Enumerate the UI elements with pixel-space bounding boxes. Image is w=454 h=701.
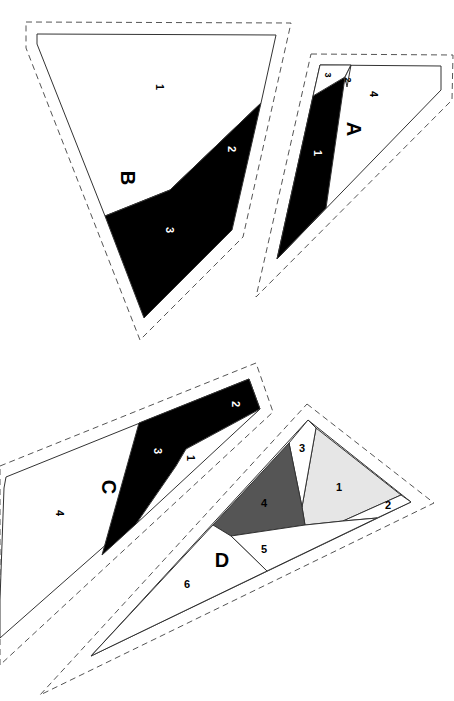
section-d-piece-3-label: 3	[299, 442, 305, 454]
section-b-piece-2-label: 2	[226, 146, 238, 152]
section-c-piece-3-label: 3	[152, 448, 164, 454]
section-c-piece-4-label: 4	[54, 510, 66, 517]
section-a-label: A	[343, 122, 365, 136]
section-a: 3 2 4 1 A	[256, 54, 453, 297]
pattern-canvas: 1 2 3 B 3 2 4 1 A 2 3 1 4 C	[0, 0, 454, 701]
section-d-piece-4-label: 4	[261, 497, 268, 509]
section-a-piece-1-label: 1	[312, 150, 324, 156]
section-c-piece-2-label: 2	[230, 401, 242, 407]
section-b-piece-3-label: 3	[164, 227, 176, 233]
section-c-label: C	[98, 480, 120, 494]
section-b-label: B	[117, 171, 139, 185]
section-a-piece-2-label: 2	[343, 77, 353, 82]
section-a-piece-4-label: 4	[368, 91, 380, 98]
section-d-piece-6-label: 6	[184, 578, 190, 590]
section-d-piece-5-label: 5	[261, 543, 267, 555]
section-d-piece-2-label: 2	[385, 499, 391, 511]
section-b: 1 2 3 B	[26, 22, 291, 340]
section-b-piece-1-label: 1	[154, 84, 166, 90]
section-d-piece-1-label: 1	[336, 481, 342, 493]
section-d-label: D	[215, 549, 229, 571]
section-d-piece-6	[91, 525, 267, 656]
section-a-piece-3-label: 3	[323, 72, 333, 77]
section-c-piece-1-label: 1	[185, 455, 197, 461]
